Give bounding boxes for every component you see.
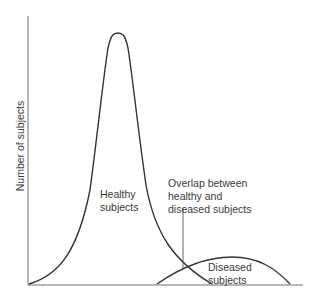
diseased-label-line1: Diseased — [208, 261, 252, 274]
overlap-label-line1: Overlap between — [168, 177, 251, 190]
y-axis-label: Number of subjects — [14, 91, 26, 201]
chart-canvas — [0, 0, 313, 299]
overlap-label-line2: healthy and — [168, 190, 251, 203]
healthy-curve — [29, 33, 212, 284]
diseased-label-line2: subjects — [208, 274, 252, 287]
healthy-label-line1: Healthy — [100, 188, 139, 201]
diseased-label: Diseased subjects — [208, 261, 252, 287]
overlap-label: Overlap between healthy and diseased sub… — [168, 177, 251, 216]
healthy-label: Healthy subjects — [100, 188, 139, 214]
healthy-label-line2: subjects — [100, 201, 139, 214]
overlap-label-line3: diseased subjects — [168, 203, 251, 216]
